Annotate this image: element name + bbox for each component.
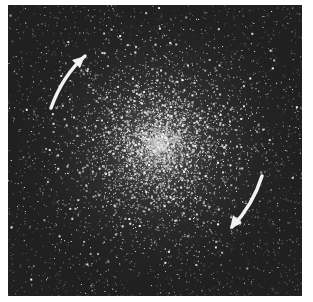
- figure: [0, 0, 313, 302]
- star-cluster-photo: [8, 5, 302, 296]
- star-field: [8, 5, 302, 296]
